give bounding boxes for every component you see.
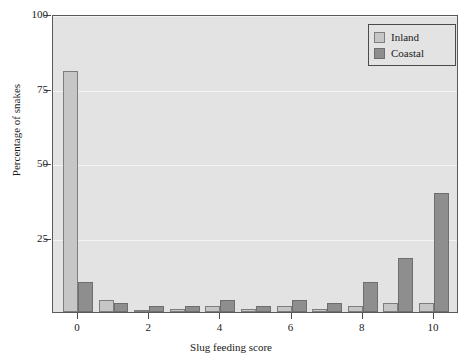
x-tick-label-6: 6 xyxy=(276,322,306,333)
bar-inland-score-6 xyxy=(277,306,292,312)
bar-inland-score-5 xyxy=(241,309,256,312)
legend: InlandCoastal xyxy=(368,24,456,66)
bar-inland-score-9 xyxy=(383,303,398,312)
x-tick-6 xyxy=(291,313,292,319)
legend-item-inland: Inland xyxy=(374,29,450,45)
legend-label-inland: Inland xyxy=(391,32,419,43)
x-tick-label-2: 2 xyxy=(133,322,163,333)
x-tick-10 xyxy=(433,313,434,319)
x-tick-0 xyxy=(77,313,78,319)
bar-inland-score-0 xyxy=(63,71,78,312)
square-swatch-icon xyxy=(374,48,385,59)
bar-coastal-score-3 xyxy=(185,306,200,312)
bar-coastal-score-8 xyxy=(363,282,378,312)
bar-inland-score-7 xyxy=(312,309,327,312)
x-tick-4 xyxy=(219,313,220,319)
x-tick-label-4: 4 xyxy=(204,322,234,333)
x-axis-title: Slug feeding score xyxy=(0,341,462,353)
bar-inland-score-10 xyxy=(419,303,434,312)
bar-coastal-score-1 xyxy=(114,303,129,312)
legend-label-coastal: Coastal xyxy=(391,48,424,59)
bar-inland-score-4 xyxy=(205,306,220,312)
y-axis-title: Percentage of snakes xyxy=(10,60,22,200)
x-tick-label-8: 8 xyxy=(347,322,377,333)
bar-coastal-score-2 xyxy=(149,306,164,312)
square-swatch-icon xyxy=(374,32,385,43)
bar-coastal-score-4 xyxy=(220,300,235,312)
legend-item-coastal: Coastal xyxy=(374,45,450,61)
bar-inland-score-8 xyxy=(348,306,363,312)
bar-coastal-score-9 xyxy=(398,258,413,312)
bar-coastal-score-10 xyxy=(434,193,449,312)
bar-coastal-score-0 xyxy=(78,282,93,312)
bar-inland-score-3 xyxy=(170,309,185,312)
bar-coastal-score-6 xyxy=(292,300,307,312)
bar-coastal-score-7 xyxy=(327,303,342,312)
bar-inland-score-1 xyxy=(99,300,114,312)
bar-inland-score-2 xyxy=(134,310,149,312)
x-tick-label-0: 0 xyxy=(62,322,92,333)
bar-coastal-score-5 xyxy=(256,306,271,312)
y-tick-label-25: 25 xyxy=(8,233,48,244)
x-tick-8 xyxy=(362,313,363,319)
bar-chart-figure: 255075100 Percentage of snakes 0246810 S… xyxy=(0,0,462,360)
x-tick-label-10: 10 xyxy=(418,322,448,333)
x-tick-2 xyxy=(148,313,149,319)
y-tick-label-100: 100 xyxy=(8,9,48,20)
